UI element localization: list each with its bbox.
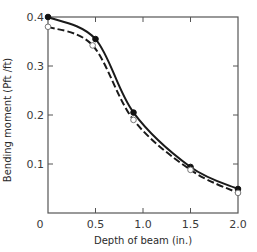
bending-moment-chart: 00.51.01.52.0 0.10.20.30.4 Depth of beam… (0, 0, 257, 252)
y-tick-label: 0.1 (27, 158, 45, 171)
y-tick-label: 0.3 (27, 60, 45, 73)
open-data-point (235, 190, 241, 196)
x-tick-labels: 00.51.01.52.0 (37, 218, 247, 231)
filled-data-point (93, 36, 99, 42)
y-tick-label: 0.2 (27, 109, 45, 122)
x-tick-label: 1.5 (182, 218, 200, 231)
plot-frame (48, 17, 238, 213)
y-tick-label: 0.4 (27, 11, 45, 24)
filled-data-point (131, 110, 137, 116)
axis-ticks (48, 17, 238, 213)
open-data-point (45, 24, 51, 30)
x-tick-label: 2.0 (229, 218, 247, 231)
x-axis-title: Depth of beam (in.) (94, 235, 192, 246)
solid-series (45, 14, 241, 192)
open-data-point (131, 117, 137, 123)
x-tick-label: 0.5 (87, 218, 105, 231)
dashed-series (45, 24, 241, 196)
filled-data-point (45, 14, 51, 20)
open-data-point (188, 167, 194, 173)
data-series (45, 14, 241, 196)
y-axis-title: Bending moment (Pft /ft) (2, 58, 13, 183)
x-tick-label: 1.0 (134, 218, 152, 231)
y-tick-labels: 0.10.20.30.4 (27, 11, 45, 171)
x-tick-label: 0 (37, 218, 44, 231)
open-data-point (90, 43, 96, 49)
